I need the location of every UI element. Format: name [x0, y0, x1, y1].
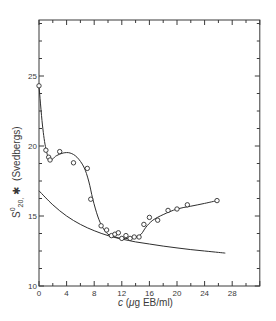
data-point-circle — [142, 222, 146, 226]
data-points — [37, 84, 219, 241]
data-point-circle — [137, 235, 141, 239]
y-axis-label: S020, ✱(Svedbergs) — [9, 126, 24, 218]
data-point-circle — [48, 158, 52, 162]
x-tick-label: 28 — [228, 289, 237, 298]
data-point-circle — [99, 224, 103, 228]
data-point-circle — [175, 207, 179, 211]
data-point-circle — [120, 236, 124, 240]
reference-curve — [39, 191, 225, 253]
x-tick-label: 8 — [92, 289, 97, 298]
data-point-circle — [185, 203, 189, 207]
data-point-circle — [132, 235, 136, 239]
x-tick-label: 0 — [37, 289, 42, 298]
data-point-circle — [104, 228, 108, 232]
tick-labels: 048121620242810152025 — [28, 72, 237, 298]
data-point-circle — [147, 215, 151, 219]
y-tick-label: 25 — [28, 72, 37, 81]
plot-frame — [39, 20, 260, 286]
y-tick-label: 20 — [28, 142, 37, 151]
data-point-circle — [85, 166, 89, 170]
sedimentation-chart: 048121620242810152025 c (μg EB/ml) S020,… — [0, 0, 276, 321]
curves — [39, 86, 225, 253]
data-point-circle — [37, 84, 41, 88]
data-point-circle — [155, 218, 159, 222]
x-tick-label: 4 — [64, 289, 69, 298]
data-point-circle — [71, 161, 75, 165]
x-tick-label: 20 — [173, 289, 182, 298]
axis-ticks — [39, 20, 260, 286]
y-tick-label: 10 — [28, 282, 37, 291]
svg-text:S020, ✱(Svedbergs): S020, ✱(Svedbergs) — [9, 126, 24, 218]
x-tick-label: 24 — [200, 289, 209, 298]
data-point-circle — [116, 231, 120, 235]
data-point-circle — [166, 208, 170, 212]
data-point-circle — [215, 198, 219, 202]
data-point-circle — [89, 197, 93, 201]
y-tick-label: 15 — [28, 212, 37, 221]
data-point-circle — [44, 148, 48, 152]
data-point-circle — [124, 233, 128, 237]
data-point-circle — [58, 149, 62, 153]
plot-frame-rect — [39, 20, 260, 286]
x-axis-label: c (μg EB/ml) — [118, 297, 173, 308]
